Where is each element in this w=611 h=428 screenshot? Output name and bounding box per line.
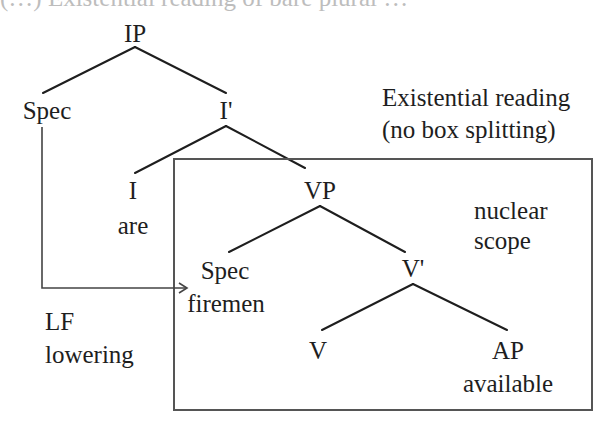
- branch-ip-spec: [43, 47, 135, 93]
- lf-label: LF: [45, 309, 74, 334]
- node-i-bar: I': [220, 98, 233, 123]
- branch-ip-ibar: [135, 47, 226, 93]
- node-i: I: [129, 178, 137, 203]
- node-spec-ip: Spec: [23, 98, 72, 123]
- node-spec-vp: Spec: [201, 258, 250, 283]
- branch-vp-spec: [229, 206, 320, 252]
- clipped-caption: (…) Existential reading of bare plural …: [0, 0, 408, 12]
- lf-lowering-arrow: [42, 127, 187, 293]
- scope-label: scope: [474, 228, 531, 253]
- branch-ibar-vp: [226, 126, 305, 168]
- word-available: available: [463, 371, 553, 396]
- nuclear-label: nuclear: [474, 198, 548, 223]
- title-no-box-splitting: (no box splitting): [382, 117, 556, 142]
- branch-vbar-v: [322, 284, 413, 330]
- branch-vp-vbar: [320, 206, 405, 252]
- node-v: V: [309, 338, 327, 363]
- node-v-bar: V': [402, 256, 425, 281]
- word-firemen: firemen: [187, 291, 265, 316]
- branch-ibar-i: [135, 126, 226, 173]
- node-ip: IP: [124, 21, 146, 46]
- title-existential-reading: Existential reading: [382, 85, 570, 110]
- node-vp: VP: [304, 178, 336, 203]
- node-ap: AP: [492, 338, 524, 363]
- branch-vbar-ap: [413, 284, 507, 330]
- syntax-tree-diagram: (…) Existential reading of bare plural ……: [0, 0, 611, 428]
- word-are: are: [118, 213, 149, 238]
- lowering-label: lowering: [45, 342, 134, 367]
